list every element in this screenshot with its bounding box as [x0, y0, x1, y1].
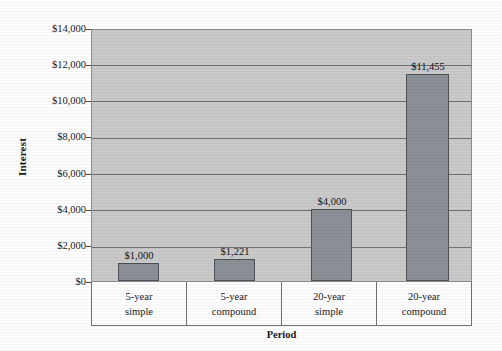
y-tick-label: $4,000: [22, 205, 86, 215]
bar-data-label: $4,000: [301, 196, 363, 207]
x-category-20-year-compound: 20-year compound: [377, 282, 471, 325]
y-axis-tick-labels: $14,000 $12,000 $10,000 $8,000 $6,000 $4…: [20, 0, 86, 351]
x-category-line: 20-year: [313, 289, 345, 304]
x-category-line: simple: [125, 304, 153, 319]
x-category-line: 20-year: [408, 289, 440, 304]
y-tick-label: $10,000: [22, 96, 86, 106]
bar-5-year-compound: [214, 259, 255, 281]
x-axis-category-table: 5-year simple 5-year compound 20-year si…: [91, 282, 472, 326]
x-axis-title: Period: [91, 329, 472, 340]
x-category-line: compound: [402, 304, 446, 319]
y-tick-label: $8,000: [22, 132, 86, 142]
x-category-line: compound: [212, 304, 256, 319]
y-tick-label: $12,000: [22, 60, 86, 70]
bar-data-label: $1,000: [108, 250, 170, 261]
y-tick-label: $6,000: [22, 169, 86, 179]
bar-5-year-simple: [118, 263, 159, 281]
x-category-line: 5-year: [221, 289, 248, 304]
x-category-5-year-compound: 5-year compound: [187, 282, 282, 325]
bar-data-label: $1,221: [204, 246, 266, 257]
y-tick-label: $14,000: [22, 24, 86, 34]
bar-20-year-compound: [406, 74, 449, 281]
y-tick-label: $2,000: [22, 241, 86, 251]
plot-area: $1,000 $1,221 $4,000 $11,455: [91, 29, 472, 282]
x-category-20-year-simple: 20-year simple: [282, 282, 377, 325]
y-tick-label: $0: [22, 277, 86, 287]
x-category-line: 5-year: [126, 289, 153, 304]
bar-chart-figure: Interest $14,000 $12,000 $10,000 $8,000 …: [0, 0, 502, 351]
x-category-5-year-simple: 5-year simple: [92, 282, 187, 325]
bar-data-label: $11,455: [397, 61, 459, 72]
bar-20-year-simple: [311, 209, 352, 281]
x-category-line: simple: [315, 304, 343, 319]
